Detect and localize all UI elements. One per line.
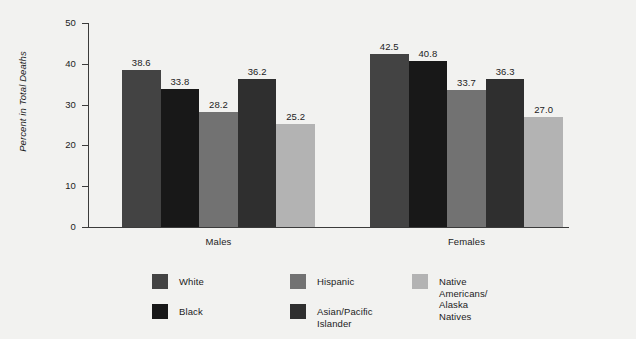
- bar: [524, 117, 563, 227]
- y-axis-tick-label: 10: [36, 181, 76, 191]
- bar: [276, 124, 315, 227]
- y-axis-tick: [82, 227, 89, 228]
- x-axis-line: [88, 227, 569, 228]
- legend-label: Black: [179, 306, 203, 318]
- x-axis-group-label: Males: [102, 236, 335, 247]
- legend-swatch-icon: [290, 304, 306, 319]
- y-axis-tick-label: 30: [36, 100, 76, 110]
- legend-label: White: [179, 276, 204, 288]
- bar: [447, 90, 486, 227]
- legend-swatch-icon: [412, 274, 428, 289]
- legend-swatch-icon: [152, 304, 168, 319]
- legend-label: Hispanic: [317, 276, 354, 288]
- bar-value-label: 36.3: [480, 66, 531, 77]
- y-axis-tick-label: 20: [36, 140, 76, 150]
- legend-swatch-icon: [152, 274, 168, 289]
- bar: [122, 70, 161, 227]
- bar-value-label: 33.8: [155, 76, 206, 87]
- bar-value-label: 36.2: [232, 66, 283, 77]
- bar-value-label: 40.8: [403, 48, 454, 59]
- bar-value-label: 27.0: [518, 104, 569, 115]
- bar-chart: Percent in Total Deaths 01020304050 38.6…: [0, 0, 636, 339]
- bar-value-label: 25.2: [270, 111, 321, 122]
- bar-value-label: 33.7: [441, 77, 492, 88]
- bar: [370, 54, 409, 227]
- legend-label: Asian/Pacific Islander: [317, 306, 373, 329]
- bar: [486, 79, 525, 227]
- y-axis-tick-label: 40: [36, 59, 76, 69]
- legend-swatch-icon: [290, 274, 306, 289]
- y-axis-title: Percent in Total Deaths: [17, 32, 28, 172]
- legend-label: Native Americans/ Alaska Natives: [439, 276, 488, 322]
- bar-value-label: 38.6: [116, 57, 167, 68]
- bar: [199, 112, 238, 227]
- y-axis-tick-label: 0: [36, 222, 76, 232]
- y-axis-tick-label: 50: [36, 18, 76, 28]
- x-axis-group-label: Females: [350, 236, 583, 247]
- bar-value-label: 28.2: [193, 99, 244, 110]
- chart-legend: WhiteBlackHispanicAsian/Pacific Islander…: [0, 270, 636, 330]
- plot-area: [88, 23, 568, 227]
